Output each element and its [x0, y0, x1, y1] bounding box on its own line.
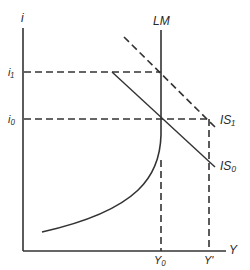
is0-label: IS₀	[220, 159, 236, 173]
lm-curve	[42, 30, 161, 232]
is1-curve	[124, 37, 216, 128]
is-lm-diagram: i Y LM IS₁ IS₀ i₁ i₀ Y₀ Y'	[0, 0, 250, 270]
yprime-label: Y'	[204, 254, 214, 266]
y0-label: Y₀	[154, 254, 166, 266]
is1-label: IS₁	[220, 113, 235, 127]
lm-label: LM	[153, 14, 170, 28]
i1-label: i₁	[8, 66, 14, 78]
y-axis-label: i	[21, 11, 24, 25]
x-axis-label: Y	[229, 243, 238, 257]
i0-label: i₀	[8, 113, 15, 125]
